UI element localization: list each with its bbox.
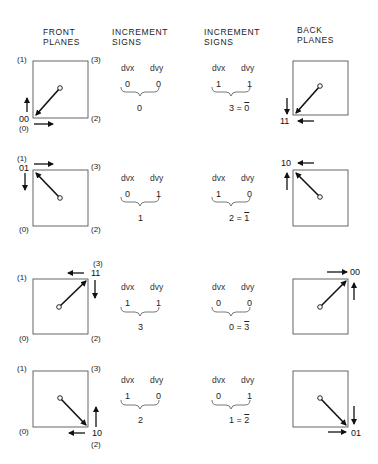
front-plane-code: 01 <box>19 163 29 173</box>
corner-label-0: (0) <box>19 124 29 133</box>
dvy-value: 0 <box>247 298 252 308</box>
back-increment-signs: dvxdvy 11 3 = 0 <box>209 63 279 119</box>
dvx-label: dvx <box>212 282 225 292</box>
origin-circle <box>318 84 323 89</box>
front-plane-code: 11 <box>91 268 100 278</box>
corner-label-1: (1) <box>17 154 27 163</box>
back-increment-signs: dvxdvy 01 1 = 2 <box>209 375 279 431</box>
dvy-label: dvy <box>241 63 254 73</box>
front-plane-code: 00 <box>19 114 29 124</box>
dvy-value: 0 <box>156 79 161 89</box>
vector-arrow <box>296 173 320 197</box>
corner-label-1: (1) <box>17 55 27 64</box>
result-lhs: 0 = <box>229 322 244 332</box>
corner-label-2: (2) <box>91 225 101 234</box>
origin-circle <box>57 305 62 310</box>
vector-arrow <box>320 281 346 307</box>
front-increment-signs: dvxdvy 11 3 <box>118 282 188 338</box>
octant-result: 3 = 0 <box>229 103 249 113</box>
corner-label-0: (0) <box>19 334 29 343</box>
dvy-value: 1 <box>156 298 161 308</box>
vector-arrow <box>296 86 320 113</box>
origin-circle <box>318 305 323 310</box>
vector-arrow <box>36 88 60 115</box>
dvy-label: dvy <box>150 63 163 73</box>
dvy-value: 1 <box>247 79 252 89</box>
diagram-graphics <box>0 0 378 464</box>
back-plane-code: 10 <box>281 158 291 168</box>
dvx-label: dvx <box>121 173 134 183</box>
front-increment-signs: dvxdvy 10 2 <box>118 375 188 431</box>
back-plane-code: 01 <box>351 428 361 438</box>
dvy-value: 0 <box>156 391 161 401</box>
dvx-value: 0 <box>125 79 130 89</box>
back-plane-code: 11 <box>280 116 289 126</box>
brace-group <box>121 87 250 409</box>
dvy-label: dvy <box>150 282 163 292</box>
vector-arrow <box>60 398 86 425</box>
dvx-label: dvx <box>121 63 134 73</box>
corner-label-2: (2) <box>91 114 101 123</box>
dvx-value: 1 <box>216 79 221 89</box>
dvx-value: 0 <box>125 189 130 199</box>
result-complement: 2 <box>244 415 249 425</box>
corner-label-3: (3) <box>91 55 101 64</box>
origin-circle <box>58 86 63 91</box>
dvy-label: dvy <box>241 282 254 292</box>
result-lhs: 1 = <box>229 415 244 425</box>
result-complement: 3 <box>244 322 249 332</box>
front-increment-signs: dvxdvy 01 1 <box>118 173 188 229</box>
origin-circle <box>58 396 63 401</box>
octant-result: 1 = 2 <box>229 415 249 425</box>
front-increment-signs: dvxdvy 00 0 <box>118 63 188 119</box>
corner-label-3: (3) <box>91 364 101 373</box>
corner-label-2: (2) <box>91 334 101 343</box>
dvy-label: dvy <box>150 173 163 183</box>
dvx-value: 0 <box>216 298 221 308</box>
dvx-label: dvx <box>121 282 134 292</box>
back-increment-signs: dvxdvy 00 0 = 3 <box>209 282 279 338</box>
corner-label-3: (3) <box>91 162 101 171</box>
corner-label-0: (0) <box>19 427 29 436</box>
vector-arrow <box>59 281 86 307</box>
corner-label-1: (1) <box>17 273 27 282</box>
origin-circle <box>58 196 63 201</box>
corner-label-0: (0) <box>19 225 29 234</box>
result-complement: 0 <box>244 103 249 113</box>
vector-arrow <box>320 398 346 425</box>
dvy-value: 1 <box>156 189 161 199</box>
corner-label-2: (2) <box>91 440 101 449</box>
result-lhs: 3 = <box>229 103 244 113</box>
dvx-label: dvx <box>121 375 134 385</box>
dvx-label: dvx <box>212 173 225 183</box>
dvy-value: 1 <box>247 391 252 401</box>
octant-result: 0 <box>137 103 142 113</box>
dvy-label: dvy <box>241 375 254 385</box>
origin-circle <box>318 195 323 200</box>
octant-result: 1 <box>138 213 143 223</box>
dvy-label: dvy <box>150 375 163 385</box>
octant-result: 3 <box>138 322 143 332</box>
origin-circle <box>318 396 323 401</box>
vector-arrow <box>36 173 60 198</box>
dvy-value: 0 <box>247 189 252 199</box>
dvy-label: dvy <box>241 173 254 183</box>
dvx-label: dvx <box>212 63 225 73</box>
back-increment-signs: dvxdvy 10 2 = 1 <box>209 173 279 229</box>
dvx-value: 1 <box>125 298 130 308</box>
dvx-value: 1 <box>125 391 130 401</box>
back-plane-code: 00 <box>350 267 360 277</box>
octant-result: 2 <box>138 415 143 425</box>
corner-label-3: (3) <box>93 259 103 268</box>
result-lhs: 2 = <box>229 213 244 223</box>
result-complement: 1 <box>244 213 249 223</box>
dvx-value: 1 <box>216 189 221 199</box>
dvx-value: 0 <box>216 391 221 401</box>
octant-result: 2 = 1 <box>229 213 249 223</box>
dvx-label: dvx <box>212 375 225 385</box>
corner-label-1: (1) <box>17 364 27 373</box>
octant-result: 0 = 3 <box>229 322 249 332</box>
front-plane-code: 10 <box>92 428 102 438</box>
